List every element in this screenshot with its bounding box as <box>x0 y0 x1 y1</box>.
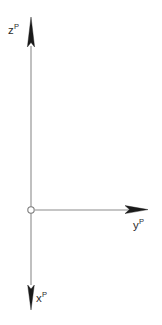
x-axis-arrowhead <box>28 285 35 310</box>
origin-marker <box>28 207 34 213</box>
z-axis-label-superscript: P <box>14 22 19 31</box>
z-axis-arrowhead <box>27 17 34 47</box>
coordinate-frame-diagram: zP yP xP <box>0 0 162 325</box>
axes-svg <box>0 0 162 325</box>
x-axis-label-superscript: P <box>42 290 47 299</box>
z-axis-label: zP <box>8 23 19 36</box>
y-axis-label-superscript: P <box>139 217 144 226</box>
y-axis-label: yP <box>133 218 144 231</box>
x-axis-label: xP <box>36 291 47 304</box>
